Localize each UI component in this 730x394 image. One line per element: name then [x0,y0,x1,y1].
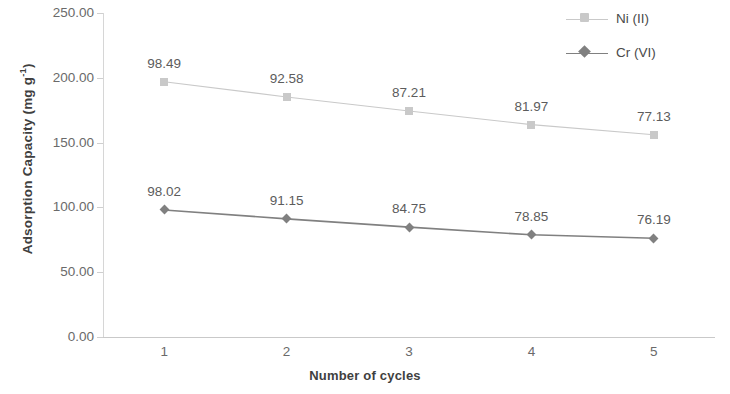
data-label-cr-4: 78.85 [514,209,548,224]
y-axis-tick-mark [97,143,103,144]
data-label-cr-1: 98.02 [147,184,181,199]
x-axis-tick-5: 5 [624,344,684,359]
legend-label-ni: Ni (II) [616,11,649,26]
y-axis-tick-mark [97,337,103,338]
y-axis-tick-mark [97,207,103,208]
y-axis-tick-labels: 0.0050.00100.00150.00200.00250.00 [0,0,94,394]
data-point-ni-1 [160,78,168,86]
data-point-cr-4 [526,230,536,240]
chart-legend: Ni (II) Cr (VI) [566,8,726,76]
data-label-cr-2: 91.15 [270,193,304,208]
y-axis-line [103,13,104,338]
legend-label-cr: Cr (VI) [616,45,656,60]
data-point-cr-2 [282,214,292,224]
data-label-ni-4: 81.97 [514,99,548,114]
x-axis-tick-1: 1 [134,344,194,359]
legend-item-cr[interactable]: Cr (VI) [566,42,726,76]
chart-container: Adsorption Capacity (mg g-1) 0.0050.0010… [0,0,730,394]
y-axis-tick-250.00: 250.00 [8,6,94,20]
data-point-cr-5 [649,233,659,243]
legend-item-ni[interactable]: Ni (II) [566,8,726,42]
x-axis-tick-3: 3 [379,344,439,359]
x-axis-line [103,337,715,338]
data-point-cr-1 [159,205,169,215]
x-axis-title: Number of cycles [0,368,730,383]
data-label-ni-2: 92.58 [270,71,304,86]
data-label-ni-1: 98.49 [147,56,181,71]
y-axis-tick-50.00: 50.00 [8,265,94,279]
legend-marker-ni-square-icon [580,13,589,22]
y-axis-tick-100.00: 100.00 [8,200,94,214]
y-axis-tick-150.00: 150.00 [8,136,94,150]
x-axis-tick-2: 2 [257,344,317,359]
y-axis-tick-mark [97,13,103,14]
y-axis-tick-200.00: 200.00 [8,71,94,85]
y-axis-tick-0.00: 0.00 [8,330,94,344]
data-point-ni-2 [283,93,291,101]
data-point-cr-3 [404,222,414,232]
data-point-ni-4 [527,121,535,129]
y-axis-tick-mark [97,78,103,79]
data-label-ni-5: 77.13 [637,109,671,124]
data-point-ni-3 [405,107,413,115]
y-axis-tick-mark [97,272,103,273]
data-label-cr-5: 76.19 [637,212,671,227]
legend-marker-cr-diamond-icon [578,45,591,58]
data-point-ni-5 [650,131,658,139]
x-axis-tick-4: 4 [501,344,561,359]
data-label-ni-3: 87.21 [392,85,426,100]
data-label-cr-3: 84.75 [392,201,426,216]
